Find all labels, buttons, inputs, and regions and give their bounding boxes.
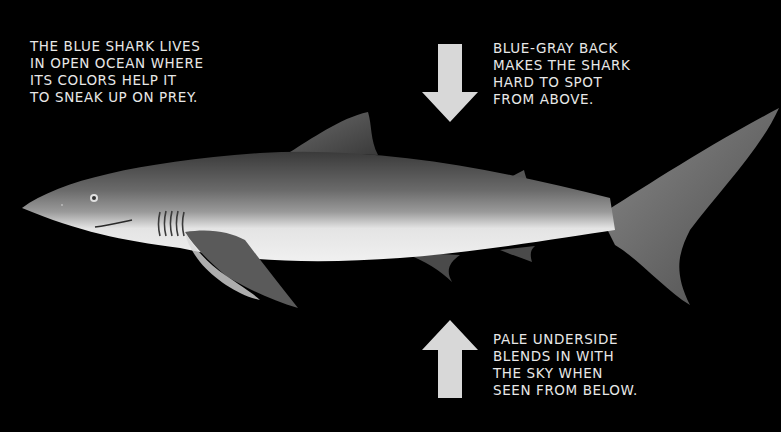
shark-body <box>22 152 615 261</box>
intro-caption: The blue shark lives in open ocean where… <box>30 38 204 106</box>
up-arrow-icon <box>420 318 480 398</box>
tail-fin <box>600 108 779 305</box>
anal-fin <box>500 246 535 262</box>
dorsal-fin <box>290 112 378 155</box>
back-color-caption: Blue-gray back makes the shark hard to s… <box>493 40 631 108</box>
underside-color-caption: Pale underside blends in with the sky wh… <box>493 331 638 399</box>
blue-shark-illustration <box>0 100 781 320</box>
